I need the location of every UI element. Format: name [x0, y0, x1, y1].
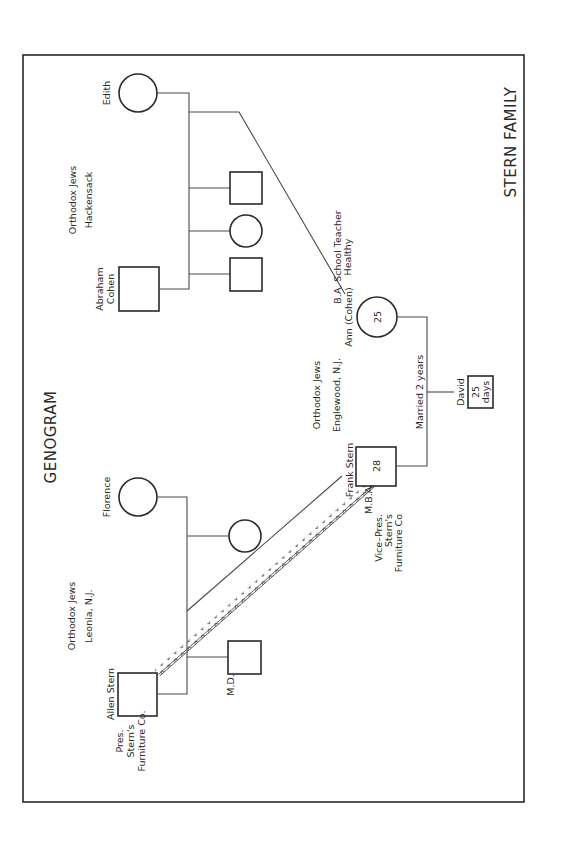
stern-md-note: M.D.: [225, 674, 236, 696]
frank-note-line4: Furniture Co: [393, 514, 404, 572]
stern-family: Florence Allen Stern Pres. Stern's Furni…: [66, 476, 376, 771]
cohen-sibling-3-male-symbol: [230, 258, 262, 291]
couple-group-line1: Orthodox Jews: [311, 361, 322, 430]
ann-note-line2: Healthy: [342, 238, 353, 275]
florence-female-symbol: [119, 478, 157, 516]
frank-label: Frank Stern: [344, 443, 355, 497]
allen-note-line1: Pres.: [114, 729, 125, 752]
abraham-label-line1: Abraham: [94, 267, 105, 310]
frank-note-line1: M.B.A.: [363, 484, 374, 514]
marriage-label: Married 2 years: [414, 355, 425, 429]
frank-age: 28: [371, 460, 382, 472]
cohen-sibling-1-male-symbol: [230, 172, 262, 204]
ann-age: 25: [372, 311, 383, 323]
ann-parent-line: [189, 112, 345, 294]
allen-note-line3: Furniture Co.: [136, 711, 147, 772]
stern-md-male-symbol: [228, 641, 261, 674]
david-label: David: [455, 378, 466, 405]
stern-group-line1: Orthodox Jews: [66, 582, 77, 651]
stern-sister-female-symbol: [229, 520, 261, 552]
frank-parent-line: [187, 476, 342, 611]
cohen-group-line1: Orthodox Jews: [67, 166, 78, 235]
couple-group-line2: Englewood, N.J.: [331, 358, 342, 432]
abraham-male-symbol: [119, 267, 159, 311]
cohen-sibling-2-female-symbol: [230, 215, 262, 247]
abraham-label-line2: Cohen: [105, 274, 116, 304]
edith-connector: [157, 93, 189, 289]
genogram-diagram: Edith Abraham Cohen Orthodox Jews Hacken…: [0, 0, 563, 859]
edith-label: Edith: [101, 81, 112, 105]
page-frame: [23, 55, 524, 802]
stern-group-line2: Leonia, N.J.: [83, 589, 94, 642]
family-title: STERN FAMILY: [502, 86, 520, 197]
conflict-line: [154, 480, 375, 676]
cohen-family: Edith Abraham Cohen Orthodox Jews Hacken…: [67, 74, 345, 311]
ann-label: Ann (Cohen): [343, 287, 354, 346]
allen-male-symbol: [118, 673, 157, 716]
cohen-group-line2: Hackensack: [83, 171, 94, 228]
edith-female-symbol: [119, 74, 157, 112]
allen-label: Allen Stern: [105, 668, 116, 720]
genogram-title: GENOGRAM: [42, 391, 60, 484]
allen-note-line2: Stern's: [125, 724, 136, 757]
florence-label: Florence: [101, 477, 112, 518]
david-age-line2: days: [480, 381, 491, 403]
